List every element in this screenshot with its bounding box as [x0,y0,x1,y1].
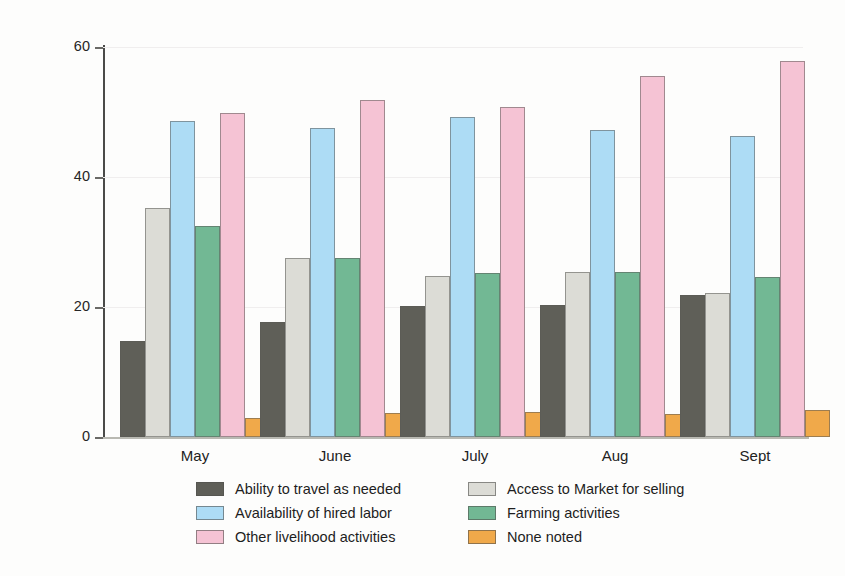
legend-swatch [468,506,496,520]
legend-swatch [196,482,224,496]
legend-item[interactable]: Availability of hired labor [196,502,392,524]
y-tick-label: 60 [54,38,90,54]
legend-label: Other livelihood activities [235,529,395,545]
legend-label: None noted [507,529,582,545]
bar [195,226,220,437]
y-tick-label-wrap: 40 [50,168,90,186]
bar [285,258,310,437]
legend-swatch [468,530,496,544]
bar [780,61,805,437]
bar [500,107,525,437]
y-tick-label: 0 [54,428,90,444]
legend-label: Farming activities [507,505,620,521]
y-tick-label: 40 [54,168,90,184]
bar [805,410,830,437]
bar [335,258,360,437]
bar [145,208,170,437]
bar-group [260,47,410,437]
legend-item[interactable]: Farming activities [468,502,620,524]
y-tick-mark [95,177,103,179]
bar-group [540,47,690,437]
legend-item[interactable]: Ability to travel as needed [196,478,401,500]
x-tick-label: June [275,447,395,464]
x-axis-line [103,437,809,439]
bar [640,76,665,437]
y-tick-mark [95,47,103,49]
bar-group [120,47,270,437]
bar [120,341,145,437]
y-tick-mark [95,307,103,309]
bar [170,121,195,437]
x-tick-label: May [135,447,255,464]
bar [260,322,285,437]
y-axis-title-label: Percentage of hhs reporting [10,0,36,66]
x-tick-label: July [415,447,535,464]
bar [590,130,615,437]
y-tick-label-wrap: 60 [50,38,90,56]
legend-label: Access to Market for selling [507,481,684,497]
legend-swatch [196,506,224,520]
legend-swatch [196,530,224,544]
bar-chart-figure: Percentage of hhs reporting 0204060 MayJ… [0,0,845,576]
legend-item[interactable]: None noted [468,526,582,548]
bar [755,277,780,437]
chart-legend: Ability to travel as neededAccess to Mar… [196,478,716,554]
bar [565,272,590,437]
bar [730,136,755,437]
bar [540,305,565,437]
legend-label: Ability to travel as needed [235,481,401,497]
x-tick-label: Sept [695,447,815,464]
bar [450,117,475,437]
y-tick-label: 20 [54,298,90,314]
bar [310,128,335,437]
plot-area [103,47,803,437]
bar [360,100,385,437]
y-axis-title: Percentage of hhs reporting [10,0,36,66]
y-tick-mark [95,437,103,439]
bar-group [400,47,550,437]
y-tick-label-wrap: 0 [50,428,90,446]
legend-item[interactable]: Other livelihood activities [196,526,395,548]
legend-swatch [468,482,496,496]
bar [400,306,425,437]
legend-item[interactable]: Access to Market for selling [468,478,684,500]
bar [475,273,500,437]
legend-label: Availability of hired labor [235,505,392,521]
y-tick-label-wrap: 20 [50,298,90,316]
bar [705,293,730,437]
bar [615,272,640,437]
bar [425,276,450,437]
x-tick-label: Aug [555,447,675,464]
bar-group [680,47,830,437]
bar [680,295,705,437]
bar [220,113,245,437]
